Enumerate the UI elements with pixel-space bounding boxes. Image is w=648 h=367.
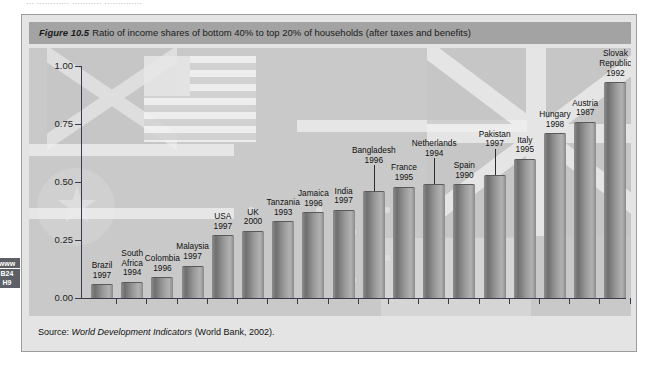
source-prefix: Source: (38, 327, 69, 337)
bar-item[interactable]: Malaysia1997 (182, 266, 204, 298)
bar-rect[interactable] (484, 175, 506, 298)
x-axis-tick (418, 298, 419, 304)
x-axis-tick (237, 298, 238, 304)
x-axis-tick (358, 298, 359, 304)
x-axis-tick (177, 298, 178, 304)
y-axis-tick (75, 124, 82, 125)
bar-rect[interactable] (272, 221, 294, 298)
x-axis-tick (479, 298, 480, 304)
x-axis-tick (569, 298, 570, 304)
bar-item[interactable]: Pakistan1997 (484, 175, 506, 298)
bar-rect[interactable] (574, 122, 596, 298)
x-axis-tick (146, 298, 147, 304)
bar-rect[interactable] (151, 277, 173, 298)
y-axis-tick-label: 0.75 (31, 118, 73, 129)
plot-area: 0.000.250.500.751.00 Brazil1997SouthAfri… (29, 48, 631, 316)
source-suffix: (World Bank, 2002). (195, 327, 275, 337)
x-axis-tick (207, 298, 208, 304)
bar-rect[interactable] (242, 231, 264, 298)
y-axis-tick (75, 240, 82, 241)
bar-label-year: 1992 (578, 69, 631, 79)
y-axis-tick (75, 66, 82, 67)
margin-tab-line-1: www (0, 259, 20, 268)
bar-item[interactable]: Tanzania1993 (272, 221, 294, 298)
x-axis-tick (509, 298, 510, 304)
bar-rect[interactable] (604, 82, 626, 298)
x-axis-tick (448, 298, 449, 304)
margin-reference-tab[interactable]: www B24 H9 (0, 258, 20, 288)
bar-series: Brazil1997SouthAfrica1994Colombia1996Mal… (81, 48, 626, 316)
bar-rect[interactable] (453, 184, 475, 298)
y-axis-tick-label: 0.25 (31, 234, 73, 245)
bar-label-country: Malaysia (176, 241, 209, 251)
running-head: ... ............ ........... ...........… (26, 0, 586, 8)
x-axis-tick (388, 298, 389, 304)
bar-item[interactable]: UK2000 (242, 231, 264, 298)
bar-rect[interactable] (514, 159, 536, 298)
y-axis-tick (75, 298, 82, 299)
y-axis-tick-label: 0.50 (31, 176, 73, 187)
bar-label-year: 1994 (397, 149, 471, 159)
bar-rect[interactable] (302, 212, 324, 298)
bar-label: SlovakRepublic1992 (578, 49, 631, 78)
bar-item[interactable]: Brazil1997 (91, 284, 113, 298)
bar-label-country: SlovakRepublic (578, 49, 631, 68)
bar-item[interactable]: Hungary1998 (544, 133, 566, 298)
x-axis-tick (630, 298, 631, 304)
bar-item[interactable]: Spain1990 (453, 184, 475, 298)
source-note: Source: World Development Indicators (Wo… (38, 327, 275, 337)
y-axis-tick-label: 1.00 (31, 60, 73, 71)
bar-label-country: Spain (454, 160, 475, 170)
bar-rect[interactable] (182, 266, 204, 298)
bar-label-country: Italy (517, 135, 532, 145)
bar-item[interactable]: SlovakRepublic1992 (604, 82, 626, 298)
bar-item[interactable]: Netherlands1994 (423, 184, 445, 298)
bar-label-country: Bangladesh (352, 145, 396, 155)
bar-item[interactable]: Bangladesh1996 (363, 191, 385, 298)
x-axis-tick (116, 298, 117, 304)
bar-label-country: Netherlands (412, 138, 457, 148)
figure-number: Figure 10.5 (39, 27, 89, 38)
bar-item[interactable]: USA1997 (212, 235, 234, 298)
bar-rect[interactable] (363, 191, 385, 298)
x-axis-tick (539, 298, 540, 304)
figure-container: Figure 10.5Ratio of income shares of bot… (21, 14, 637, 352)
bar-rect[interactable] (91, 284, 113, 298)
bar-label-country: Austria (572, 98, 598, 108)
bar-item[interactable]: France1995 (393, 187, 415, 298)
margin-tab-line-3: H9 (0, 278, 20, 287)
bar-item[interactable]: Jamaica1996 (302, 212, 324, 298)
bar-item[interactable]: SouthAfrica1994 (121, 282, 143, 298)
source-title: World Development Indicators (72, 327, 193, 337)
figure-caption-bar: Figure 10.5Ratio of income shares of bot… (29, 22, 631, 44)
bar-rect[interactable] (121, 282, 143, 298)
y-axis-tick (75, 182, 82, 183)
bar-rect[interactable] (333, 210, 355, 298)
x-axis-tick (267, 298, 268, 304)
x-axis-tick (328, 298, 329, 304)
bar-rect[interactable] (393, 187, 415, 298)
margin-tab-line-2: B24 (0, 268, 20, 278)
bar-rect[interactable] (423, 184, 445, 298)
bar-label-country: France (391, 162, 417, 172)
page-canvas: ... ............ ........... ...........… (0, 0, 648, 367)
figure-caption-text: Ratio of income shares of bottom 40% to … (92, 27, 471, 38)
y-axis-tick-label: 0.00 (31, 292, 73, 303)
bar-label-country: India (335, 186, 353, 196)
bar-item[interactable]: Italy1995 (514, 159, 536, 298)
bar-item[interactable]: India1997 (333, 210, 355, 298)
bar-item[interactable]: Colombia1996 (151, 277, 173, 298)
bar-rect[interactable] (544, 133, 566, 298)
bar-rect[interactable] (212, 235, 234, 298)
bar-item[interactable]: Austria1987 (574, 122, 596, 298)
x-axis-tick (599, 298, 600, 304)
x-axis-tick (297, 298, 298, 304)
